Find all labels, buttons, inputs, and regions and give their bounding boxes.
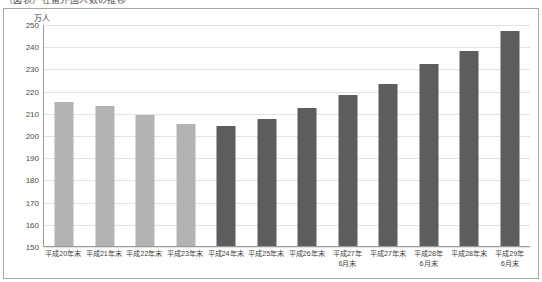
- y-tick-label: 170: [26, 198, 39, 207]
- y-tick-label: 150: [26, 243, 39, 252]
- bar[interactable]: [176, 124, 195, 246]
- bar-slot: [44, 25, 84, 246]
- x-tick-label: 平成24年末: [208, 249, 244, 259]
- x-tick-label: 平成22年末: [126, 249, 162, 259]
- x-tick-label-line1: 平成22年末: [126, 249, 162, 258]
- x-tick-label: 平成27年6月末: [333, 249, 362, 268]
- x-tick-label-line1: 平成28年末: [451, 249, 487, 258]
- bar-series: [44, 25, 530, 246]
- y-tick-label: 250: [26, 21, 39, 30]
- x-tick-label-line1: 平成27年: [333, 249, 362, 258]
- x-tick-label: 平成21年末: [86, 249, 122, 259]
- bar[interactable]: [460, 51, 479, 246]
- bar[interactable]: [379, 84, 398, 246]
- y-tick-label: 160: [26, 220, 39, 229]
- bar[interactable]: [136, 115, 155, 246]
- x-tick-label: 平成25年末: [248, 249, 284, 259]
- bar-slot: [247, 25, 287, 246]
- x-tick-label: 平成28年6月末: [414, 249, 443, 268]
- y-tick-label: 220: [26, 87, 39, 96]
- x-tick-label-line1: 平成23年末: [167, 249, 203, 258]
- bar-slot: [287, 25, 327, 246]
- x-tick-label: 平成23年末: [167, 249, 203, 259]
- clipped-header-text: （図表）在留外国人数の推移: [4, 0, 126, 6]
- x-tick-label-line2: 6月末: [414, 259, 443, 269]
- bar[interactable]: [55, 102, 74, 246]
- bar[interactable]: [419, 64, 438, 246]
- x-tick-label-line1: 平成28年: [414, 249, 443, 258]
- x-tick-label-line2: 6月末: [495, 259, 524, 269]
- x-tick-label: 平成20年末: [45, 249, 81, 259]
- bar-slot: [449, 25, 489, 246]
- x-tick-label-line1: 平成21年末: [86, 249, 122, 258]
- clipped-header-strip: （図表）在留外国人数の推移: [0, 0, 542, 7]
- x-tick-label-line1: 平成26年末: [289, 249, 325, 258]
- x-tick-label-line1: 平成20年末: [45, 249, 81, 258]
- y-axis-tick-labels: 150160170180190200210220230240250: [4, 25, 41, 247]
- bar-slot: [84, 25, 124, 246]
- x-tick-label-line1: 平成24年末: [208, 249, 244, 258]
- y-tick-label: 240: [26, 43, 39, 52]
- x-tick-label: 平成29年6月末: [495, 249, 524, 268]
- bar-slot: [125, 25, 165, 246]
- bar[interactable]: [95, 106, 114, 246]
- chart-frame: 万人 150160170180190200210220230240250 平成2…: [3, 8, 539, 279]
- bar[interactable]: [217, 126, 236, 246]
- bar[interactable]: [257, 119, 276, 246]
- x-tick-label-line1: 平成27年末: [370, 249, 406, 258]
- y-tick-label: 200: [26, 132, 39, 141]
- bar-slot: [206, 25, 246, 246]
- bar[interactable]: [500, 31, 519, 246]
- plot-area: [43, 25, 530, 247]
- y-tick-label: 230: [26, 65, 39, 74]
- x-tick-label: 平成27年末: [370, 249, 406, 259]
- bar-slot: [328, 25, 368, 246]
- bar[interactable]: [338, 95, 357, 246]
- bar-slot: [368, 25, 408, 246]
- x-tick-label-line2: 6月末: [333, 259, 362, 269]
- bar-slot: [409, 25, 449, 246]
- x-tick-label-line1: 平成29年: [495, 249, 524, 258]
- y-tick-label: 190: [26, 154, 39, 163]
- y-tick-label: 180: [26, 176, 39, 185]
- bar[interactable]: [298, 108, 317, 246]
- bar-slot: [166, 25, 206, 246]
- x-tick-label-line1: 平成25年末: [248, 249, 284, 258]
- x-tick-label: 平成26年末: [289, 249, 325, 259]
- x-tick-label: 平成28年末: [451, 249, 487, 259]
- x-axis-tick-labels: 平成20年末平成21年末平成22年末平成23年末平成24年末平成25年末平成26…: [43, 249, 530, 279]
- y-tick-label: 210: [26, 109, 39, 118]
- bar-slot: [490, 25, 530, 246]
- gridline: [44, 247, 530, 248]
